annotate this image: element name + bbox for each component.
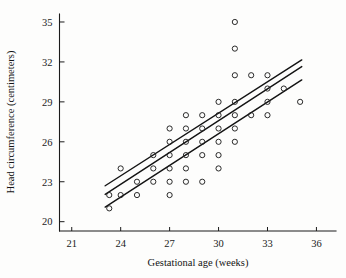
data-point (167, 126, 172, 131)
data-point (232, 73, 237, 78)
data-point (232, 139, 237, 144)
data-point (134, 192, 139, 197)
data-point (200, 126, 205, 131)
data-point (151, 179, 156, 184)
axes-group (60, 14, 337, 231)
data-point (167, 192, 172, 197)
lower-confidence-band (105, 80, 302, 207)
upper-confidence-band (105, 60, 302, 186)
data-point (232, 126, 237, 131)
scatter-plot: 212427303336202326293235 Gestational age… (0, 0, 346, 278)
data-point (200, 153, 205, 158)
y-tick-label-32: 32 (42, 57, 53, 68)
data-point (107, 192, 112, 197)
data-point (232, 19, 237, 24)
x-tick-label-33: 33 (262, 238, 273, 249)
data-point (107, 206, 112, 211)
x-tick-label-36: 36 (311, 238, 322, 249)
y-tick-label-23: 23 (42, 177, 53, 188)
y-tick-label-20: 20 (42, 216, 53, 227)
x-axis-title: Gestational age (weeks) (148, 257, 249, 269)
data-point (134, 179, 139, 184)
chart-figure: 212427303336202326293235 Gestational age… (0, 0, 346, 278)
y-tick-label-26: 26 (42, 137, 53, 148)
data-point (216, 99, 221, 104)
x-tick-label-30: 30 (213, 238, 224, 249)
y-axis-title: Head circumference (centimeters) (5, 50, 17, 193)
x-tick-label-21: 21 (66, 238, 77, 249)
data-point (216, 153, 221, 158)
data-point (232, 46, 237, 51)
data-point (183, 126, 188, 131)
data-point (216, 126, 221, 131)
data-point (183, 179, 188, 184)
data-point (167, 139, 172, 144)
tick-labels-group: 212427303336202326293235 (42, 17, 322, 249)
data-points-group (107, 19, 303, 211)
data-point (216, 139, 221, 144)
data-point (183, 166, 188, 171)
data-point (167, 166, 172, 171)
regression-lines-group (105, 60, 302, 207)
data-point (281, 86, 286, 91)
data-point (151, 166, 156, 171)
data-point (298, 99, 303, 104)
x-tick-label-27: 27 (164, 238, 175, 249)
data-point (183, 113, 188, 118)
data-point (232, 113, 237, 118)
data-point (118, 166, 123, 171)
data-point (200, 113, 205, 118)
data-point (249, 73, 254, 78)
x-tick-label-24: 24 (115, 238, 126, 249)
data-point (200, 179, 205, 184)
data-point (167, 179, 172, 184)
y-tick-label-29: 29 (42, 97, 53, 108)
data-point (265, 113, 270, 118)
y-tick-label-35: 35 (42, 17, 53, 28)
data-point (265, 73, 270, 78)
data-point (216, 166, 221, 171)
